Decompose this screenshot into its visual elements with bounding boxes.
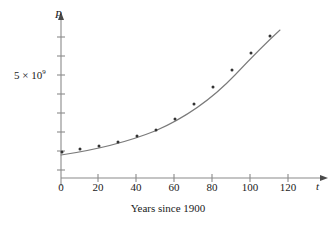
- data-point: [61, 151, 64, 154]
- data-point: [212, 86, 215, 89]
- data-point: [136, 135, 139, 138]
- population-growth-chart: P t 5 × 109 0 20 40 60 80 100 120 Years …: [0, 0, 336, 227]
- data-point: [250, 52, 253, 55]
- data-point: [79, 148, 82, 151]
- data-point: [117, 141, 120, 144]
- x-tick-label-100: 100: [238, 181, 262, 193]
- data-point: [269, 35, 272, 38]
- exponential-model-curve: [61, 30, 280, 155]
- data-point: [155, 129, 158, 132]
- data-point: [174, 118, 177, 121]
- x-tick-label-20: 20: [86, 181, 110, 193]
- x-tick-label-80: 80: [200, 181, 224, 193]
- data-point-group: [61, 35, 272, 154]
- data-point: [98, 145, 101, 148]
- y-axis-tick-label: 5 × 109: [14, 68, 46, 81]
- data-point: [193, 103, 196, 106]
- y-tick-exponent: 9: [42, 68, 46, 76]
- y-axis: [58, 12, 64, 186]
- chart-caption: Years since 1900: [0, 202, 336, 214]
- x-axis-label: t: [316, 180, 319, 192]
- x-tick-label-0: 0: [49, 181, 73, 193]
- data-point: [231, 69, 234, 72]
- y-axis-label: P: [55, 8, 62, 20]
- x-tick-label-40: 40: [124, 181, 148, 193]
- y-tick-mantissa: 5 × 10: [14, 69, 42, 81]
- x-tick-label-120: 120: [276, 181, 300, 193]
- x-tick-label-60: 60: [162, 181, 186, 193]
